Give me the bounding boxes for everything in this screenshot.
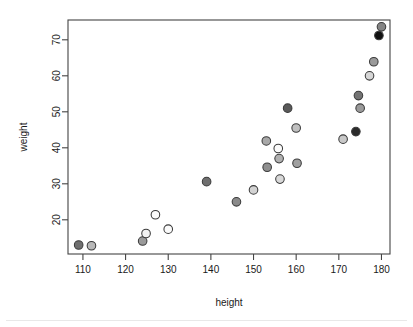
data-point [262, 137, 271, 146]
y-axis: 203040506070 [51, 34, 68, 226]
y-axis-title: weight [18, 122, 29, 152]
data-point [142, 229, 151, 238]
y-tick-label: 60 [51, 70, 62, 82]
y-tick-label: 70 [51, 34, 62, 46]
x-tick-label: 150 [245, 264, 262, 275]
data-point [365, 72, 374, 81]
x-tick-label: 180 [373, 264, 390, 275]
y-tick-label: 50 [51, 106, 62, 118]
data-point [151, 210, 160, 219]
data-point [293, 159, 302, 168]
data-point [377, 23, 386, 32]
data-point [202, 177, 211, 186]
x-tick-label: 110 [75, 264, 91, 275]
y-tick-label: 20 [51, 214, 62, 226]
data-point [232, 198, 241, 207]
data-points-layer [74, 23, 385, 250]
data-point [275, 154, 284, 163]
data-point [74, 241, 83, 250]
x-tick-label: 130 [160, 264, 177, 275]
x-tick-label: 160 [288, 264, 305, 275]
data-point [283, 104, 292, 113]
data-point [375, 31, 384, 40]
data-point [352, 127, 361, 136]
data-point [339, 135, 348, 144]
data-point [292, 124, 301, 133]
data-point [369, 57, 378, 66]
x-axis-title: height [215, 297, 242, 308]
data-point [354, 91, 363, 100]
data-point [276, 175, 285, 184]
data-point [87, 241, 96, 250]
data-point [263, 163, 272, 172]
data-point [356, 104, 365, 113]
x-axis: 110120130140150160170180 [75, 254, 390, 275]
y-tick-label: 30 [51, 178, 62, 190]
x-tick-label: 170 [330, 264, 347, 275]
plot-canvas: 110120130140150160170180203040506070heig… [0, 0, 413, 327]
data-point [274, 144, 283, 153]
x-tick-label: 140 [203, 264, 220, 275]
y-tick-label: 40 [51, 142, 62, 154]
footer-divider [6, 320, 407, 321]
scatter-plot-figure: 110120130140150160170180203040506070heig… [0, 0, 413, 327]
data-point [249, 186, 258, 195]
x-tick-label: 120 [117, 264, 134, 275]
data-point [164, 225, 173, 234]
